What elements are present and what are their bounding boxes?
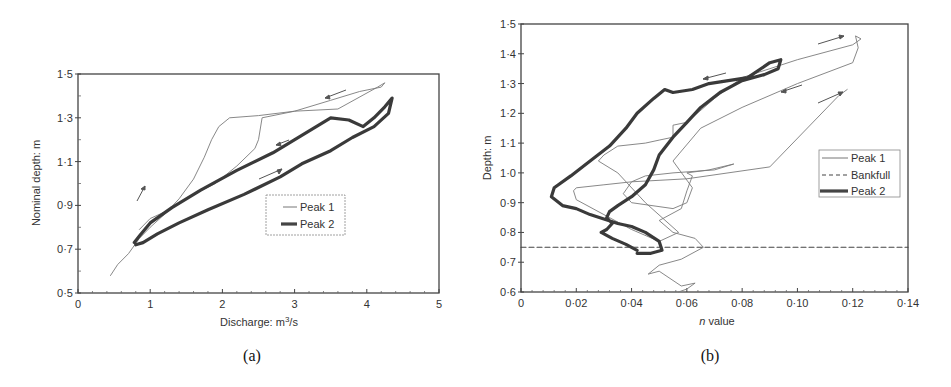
arrow-head-icon [703, 76, 708, 80]
y-tick-label: 1·1 [57, 156, 73, 168]
arrow-head-icon [141, 186, 145, 190]
y-tick-label: 0·7 [500, 256, 516, 268]
x-tick-label: 2 [219, 298, 225, 310]
legend-b: Peak 1 Bankfull Peak 2 [819, 150, 900, 197]
legend-a: Peak 1 Peak 2 [266, 195, 345, 235]
y-tick-label: 1·2 [500, 107, 516, 119]
x-tick-label: 0·08 [731, 297, 753, 309]
y-axis-label-a: Nominal depth: m [30, 140, 42, 226]
y-tick-label: 0·8 [500, 226, 516, 238]
x-tick-label: 0·10 [786, 297, 808, 309]
figure-canvas: 0123450·50·70·91·11·31·5 Peak 1 Peak 2 D… [0, 0, 951, 387]
chart-panel-b: 00·020·040·060·080·100·120·140·60·70·80·… [481, 18, 919, 365]
caption-b: (b) [701, 347, 720, 365]
y-tick-label: 1·3 [57, 112, 73, 124]
series-peak-2 [551, 60, 780, 254]
series-a [111, 83, 393, 276]
series-peak-1 [111, 83, 385, 276]
x-tick-label: 5 [436, 298, 442, 310]
axis-ticks-a: 0123450·50·70·91·11·31·5 [57, 68, 442, 310]
arrow-head-icon [277, 169, 282, 174]
x-tick-label: 4 [364, 298, 370, 310]
y-tick-label: 1·1 [500, 137, 516, 149]
x-tick-label: 0·14 [897, 297, 919, 309]
y-tick-label: 0·9 [500, 197, 516, 209]
x-tick-label: 0 [75, 298, 81, 310]
arrow-head-icon [839, 35, 844, 39]
legend-label-peak2: Peak 2 [300, 218, 334, 230]
direction-arrows-a [137, 90, 346, 201]
arrow-head-icon [325, 95, 330, 99]
series-peak-1 [574, 36, 862, 292]
x-tick-label: 1 [147, 298, 153, 310]
x-axis-label-b: n value [699, 315, 734, 327]
x-tick-label: 0·12 [842, 297, 864, 309]
x-tick-label: 0 [518, 297, 524, 309]
x-tick-label: 0·06 [676, 297, 698, 309]
y-tick-label: 1·4 [500, 48, 516, 60]
y-tick-label: 0·6 [500, 286, 516, 298]
chart-panel-a: 0123450·50·70·91·11·31·5 Peak 1 Peak 2 D… [30, 68, 442, 365]
legend-label-peak1: Peak 1 [851, 152, 885, 164]
y-tick-label: 0·7 [57, 243, 73, 255]
series-peak-2 [134, 98, 392, 245]
legend-label-peak2: Peak 2 [851, 185, 885, 197]
x-axis-label-a: Discharge: m3/s [220, 315, 298, 328]
caption-a: (a) [243, 347, 261, 365]
arrow-head-icon [276, 142, 281, 146]
y-axis-label-b: Depth: m [481, 136, 493, 181]
y-tick-label: 1·5 [500, 18, 516, 30]
y-tick-label: 0·5 [57, 287, 73, 299]
x-tick-label: 0·02 [565, 297, 587, 309]
y-tick-label: 1·3 [500, 78, 516, 90]
y-tick-label: 0·9 [57, 199, 73, 211]
y-tick-label: 1·0 [500, 167, 516, 179]
legend-label-bankfull: Bankfull [851, 169, 890, 181]
x-tick-label: 3 [292, 298, 298, 310]
y-tick-label: 1·5 [57, 68, 73, 80]
x-tick-label: 0·04 [621, 297, 643, 309]
legend-label-peak1: Peak 1 [300, 201, 334, 213]
